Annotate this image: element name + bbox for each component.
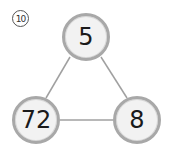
node-bottom-right-value: 8 bbox=[129, 106, 144, 134]
node-bottom-left: 72 bbox=[12, 96, 60, 144]
node-top: 5 bbox=[62, 13, 110, 61]
node-bottom-left-value: 72 bbox=[21, 106, 52, 134]
node-bottom-right: 8 bbox=[113, 96, 161, 144]
node-top-value: 5 bbox=[78, 23, 93, 51]
